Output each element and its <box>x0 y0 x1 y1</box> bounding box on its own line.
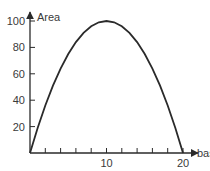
y-ticks: 20406080100 <box>7 15 35 133</box>
y-tick-label: 100 <box>7 15 25 27</box>
y-tick-label: 80 <box>13 41 25 53</box>
area-vs-base-chart: 20406080100 1020 Area base <box>0 0 210 171</box>
x-tick-label: 20 <box>177 157 189 169</box>
y-axis-label: Area <box>37 11 61 23</box>
x-tick-label: 10 <box>100 157 112 169</box>
area-curve <box>30 21 183 153</box>
y-tick-label: 40 <box>13 94 25 106</box>
x-axis-label: base <box>197 147 210 159</box>
x-ticks: 1020 <box>45 148 189 169</box>
y-tick-label: 60 <box>13 68 25 80</box>
y-tick-label: 20 <box>13 121 25 133</box>
